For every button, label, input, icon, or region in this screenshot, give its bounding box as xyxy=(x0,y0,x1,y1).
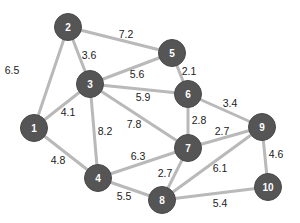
edge-weight-6-9: 3.4 xyxy=(223,97,238,109)
nodes-layer: 12345678910 xyxy=(21,14,282,214)
node-2: 2 xyxy=(55,14,82,41)
edge-weight-4-7: 6.3 xyxy=(131,150,146,162)
node-label: 5 xyxy=(169,48,175,59)
edge-weight-2-3: 3.6 xyxy=(82,49,97,61)
node-label: 9 xyxy=(259,122,265,133)
edge-weight-1-2: 6.5 xyxy=(5,64,20,76)
edge-weight-9-10: 4.6 xyxy=(269,148,284,160)
node-9: 9 xyxy=(249,114,276,141)
edge-weight-3-5: 5.6 xyxy=(130,68,145,80)
edge-weight-3-6: 5.9 xyxy=(136,91,151,103)
node-1: 1 xyxy=(21,115,48,142)
node-5: 5 xyxy=(159,40,186,67)
node-3: 3 xyxy=(77,71,104,98)
node-10: 10 xyxy=(255,174,282,201)
edge-weight-1-3: 4.1 xyxy=(61,106,76,118)
edge-weight-7-8: 2.7 xyxy=(158,167,173,179)
node-label: 4 xyxy=(95,173,101,184)
node-label: 1 xyxy=(31,123,37,134)
edge-weight-2-5: 7.2 xyxy=(119,28,134,40)
edge-weight-8-10: 5.4 xyxy=(213,197,228,209)
node-6: 6 xyxy=(175,81,202,108)
edge-weight-8-9: 6.1 xyxy=(213,162,228,174)
node-label: 10 xyxy=(262,182,274,193)
edge-weight-6-7: 2.8 xyxy=(192,114,207,126)
node-label: 8 xyxy=(159,195,165,206)
edge-weight-3-4: 8.2 xyxy=(98,125,113,137)
edge-weight-7-9: 2.7 xyxy=(215,125,230,137)
edge-weight-3-7: 7.8 xyxy=(127,118,142,130)
graph-diagram: 6.54.14.83.67.25.65.97.88.22.12.83.42.76… xyxy=(0,0,300,223)
edge-weight-5-6: 2.1 xyxy=(182,65,197,77)
edge-weight-1-4: 4.8 xyxy=(51,154,66,166)
node-label: 6 xyxy=(185,89,191,100)
node-label: 3 xyxy=(87,79,93,90)
node-7: 7 xyxy=(175,135,202,162)
node-label: 2 xyxy=(65,22,71,33)
node-4: 4 xyxy=(85,165,112,192)
node-label: 7 xyxy=(185,143,191,154)
node-8: 8 xyxy=(149,187,176,214)
edge-weight-4-8: 5.5 xyxy=(117,190,132,202)
